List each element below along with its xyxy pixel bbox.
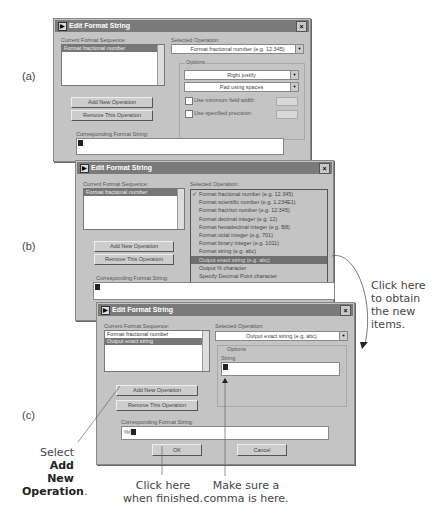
annotation-comma: Make sure a comma is here. (198, 479, 294, 505)
annotation-new-items: Click here to obtain the new items. (371, 279, 426, 331)
annotation-select-add: Select Add New Operation. (22, 446, 74, 498)
annotation-click-finished: Click here when finished. (116, 479, 210, 505)
